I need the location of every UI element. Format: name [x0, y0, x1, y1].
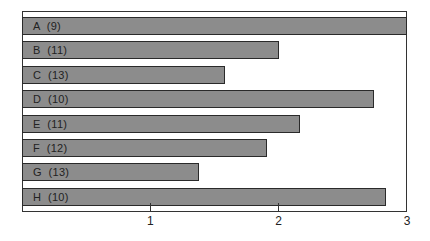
bar: A (9): [22, 17, 407, 35]
x-tick-label: 1: [140, 214, 160, 228]
x-tick-label: 3: [397, 214, 417, 228]
bar-label: D (10): [33, 92, 69, 106]
x-tick: [278, 203, 279, 212]
bar: C (13): [22, 66, 225, 84]
x-tick: [150, 203, 151, 212]
x-tick-label: 2: [269, 214, 289, 228]
bar: F (12): [22, 139, 267, 157]
bar-label: G (13): [33, 165, 69, 179]
bar-label: B (11): [33, 43, 67, 57]
bar: B (11): [22, 41, 279, 59]
bar-label: E (11): [33, 117, 67, 131]
bar: E (11): [22, 115, 300, 133]
bar-label: H (10): [33, 190, 69, 204]
bar-label: A (9): [33, 19, 61, 33]
bar: D (10): [22, 90, 374, 108]
bar: G (13): [22, 163, 199, 181]
bar-label: C (13): [33, 68, 69, 82]
horizontal-bar-chart: A (9)B (11)C (13)D (10)E (11)F (12)G (13…: [0, 0, 430, 241]
bar: H (10): [22, 188, 386, 206]
bar-label: F (12): [33, 141, 68, 155]
